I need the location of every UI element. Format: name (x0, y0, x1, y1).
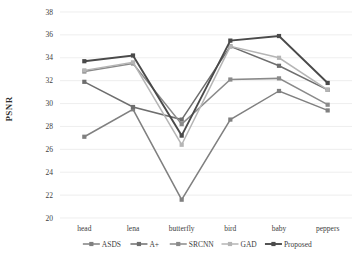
data-point-ASDS-head (82, 135, 86, 139)
y-tick-label: 36 (46, 30, 54, 39)
y-tick-label: 22 (46, 191, 54, 200)
x-tick-label-head: head (77, 224, 91, 233)
legend-label-GAD: GAD (241, 240, 258, 249)
data-point-Proposed-lena (131, 53, 135, 57)
y-tick-label: 26 (46, 145, 54, 154)
data-point-Proposed-head (82, 59, 86, 63)
data-point-A+-butterfly (180, 117, 184, 121)
series-line-ASDS (84, 91, 327, 200)
y-tick-label: 32 (46, 76, 54, 85)
legend-item-SRCNN[interactable]: SRCNN (170, 240, 215, 249)
y-tick-label: 34 (46, 53, 54, 62)
psnr-line-chart: PSNR 20222426283032343638headlenabutterf… (0, 0, 358, 256)
x-tick-label-lena: lena (127, 224, 140, 233)
data-point-Proposed-baby (277, 34, 281, 38)
data-point-GAD-lena (131, 60, 135, 64)
legend-item-A+[interactable]: A+ (130, 240, 159, 249)
series-line-Proposed (84, 36, 327, 136)
legend-marker-Proposed (271, 242, 275, 246)
y-tick-label: 28 (46, 122, 54, 131)
y-axis-title-text: PSNR (4, 96, 14, 121)
data-point-GAD-butterfly (180, 143, 184, 147)
legend-marker-ASDS (89, 242, 93, 246)
data-point-GAD-peppers (326, 88, 330, 92)
legend-label-Proposed: Proposed (284, 240, 312, 249)
x-tick-label-butterfly: butterfly (169, 224, 195, 233)
y-axis-title: PSNR (0, 0, 18, 218)
y-tick-label: 38 (46, 8, 54, 17)
data-point-A+-lena (131, 105, 135, 109)
plot-area: 20222426283032343638headlenabutterflybir… (18, 4, 358, 256)
legend-marker-SRCNN (176, 242, 180, 246)
legend-marker-GAD (228, 242, 232, 246)
y-tick-label: 30 (46, 99, 54, 108)
data-point-GAD-head (82, 68, 86, 72)
x-tick-label-bird: bird (224, 224, 236, 233)
data-point-Proposed-bird (228, 39, 232, 43)
legend-label-SRCNN: SRCNN (189, 240, 215, 249)
y-tick-label: 20 (46, 214, 54, 223)
legend-label-A+: A+ (149, 240, 159, 249)
legend-label-ASDS: ASDS (102, 240, 121, 249)
data-point-ASDS-butterfly (180, 198, 184, 202)
legend-marker-A+ (137, 242, 141, 246)
data-point-SRCNN-bird (228, 77, 232, 81)
data-point-A+-baby (277, 64, 281, 68)
data-point-A+-head (82, 80, 86, 84)
data-point-SRCNN-butterfly (180, 122, 184, 126)
data-point-ASDS-bird (228, 117, 232, 121)
data-point-GAD-baby (277, 56, 281, 60)
legend-item-ASDS[interactable]: ASDS (83, 240, 121, 249)
legend-item-GAD[interactable]: GAD (222, 240, 258, 249)
data-point-SRCNN-peppers (326, 103, 330, 107)
x-tick-label-baby: baby (272, 224, 287, 233)
y-tick-label: 24 (46, 168, 54, 177)
chart-svg: 20222426283032343638headlenabutterflybir… (18, 4, 358, 256)
data-point-Proposed-peppers (326, 81, 330, 85)
legend-item-Proposed[interactable]: Proposed (265, 240, 312, 249)
data-point-SRCNN-baby (277, 76, 281, 80)
data-point-ASDS-peppers (326, 108, 330, 112)
x-tick-label-peppers: peppers (316, 224, 339, 233)
data-point-ASDS-baby (277, 89, 281, 93)
data-point-Proposed-butterfly (180, 134, 184, 138)
